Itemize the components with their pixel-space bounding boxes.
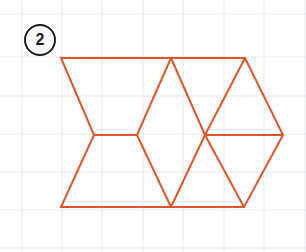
badge-layer: 2 xyxy=(0,0,306,252)
question-number-label: 2 xyxy=(36,32,45,48)
question-number-badge: 2 xyxy=(24,24,56,56)
worksheet-canvas: 2 xyxy=(0,0,306,252)
